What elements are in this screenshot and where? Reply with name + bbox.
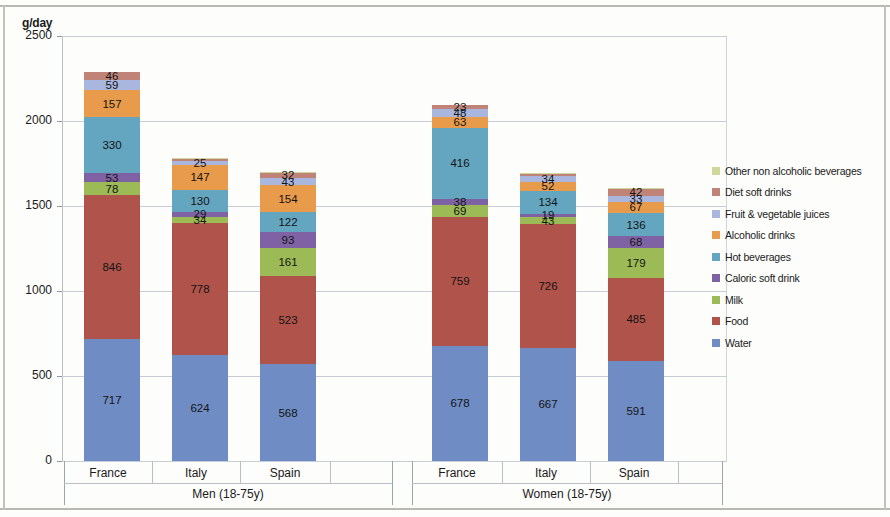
gridline bbox=[62, 36, 727, 37]
x-axis-group-line bbox=[412, 483, 722, 484]
legend-label: Water bbox=[725, 337, 752, 349]
x-axis-category-label: Italy bbox=[502, 466, 590, 480]
bar-value-label: 147 bbox=[172, 171, 228, 183]
legend-swatch-icon bbox=[712, 188, 720, 196]
chart-page: g/day 05001000150020002500 7178467853330… bbox=[0, 0, 890, 517]
legend-label: Food bbox=[725, 315, 748, 327]
legend-swatch-icon bbox=[712, 253, 720, 261]
bar-value-label: 157 bbox=[84, 98, 140, 110]
bar-value-label: 53 bbox=[84, 172, 140, 184]
x-axis-group-line bbox=[64, 483, 392, 484]
legend-swatch-icon bbox=[712, 317, 720, 325]
bar-value-label: 717 bbox=[84, 394, 140, 406]
legend-label: Diet soft drinks bbox=[725, 186, 791, 198]
x-axis-group-separator bbox=[392, 461, 393, 505]
bar-value-label: 179 bbox=[608, 257, 664, 269]
x-axis-category-separator bbox=[330, 461, 331, 483]
legend-item[interactable]: Alcoholic drinks bbox=[712, 225, 887, 247]
legend-item[interactable]: Water bbox=[712, 332, 887, 354]
bar-value-label: 678 bbox=[432, 397, 488, 409]
bar-value-label: 416 bbox=[432, 157, 488, 169]
legend-swatch-icon bbox=[712, 231, 720, 239]
y-axis-tick-mark bbox=[57, 291, 62, 292]
bar-value-label: 624 bbox=[172, 402, 228, 414]
bar-value-label: 591 bbox=[608, 405, 664, 417]
legend-label: Milk bbox=[725, 294, 743, 306]
y-axis-tick-mark bbox=[57, 461, 62, 462]
bar-value-label: 523 bbox=[260, 314, 316, 326]
legend-swatch-icon bbox=[712, 274, 720, 282]
gridline bbox=[62, 121, 727, 122]
y-axis-tick-mark bbox=[57, 376, 62, 377]
legend-item[interactable]: Milk bbox=[712, 289, 887, 311]
y-axis-tick-mark bbox=[57, 36, 62, 37]
bar-value-label: 759 bbox=[432, 275, 488, 287]
bar-value-label: 29 bbox=[172, 208, 228, 220]
bar-value-label: 25 bbox=[172, 157, 228, 169]
bar-value-label: 34 bbox=[520, 173, 576, 185]
x-axis-category-label: France bbox=[412, 466, 502, 480]
bar-value-label: 19 bbox=[520, 209, 576, 221]
bar-value-label: 667 bbox=[520, 398, 576, 410]
legend-swatch-icon bbox=[712, 167, 720, 175]
legend-item[interactable]: Diet soft drinks bbox=[712, 182, 887, 204]
bar-value-label: 68 bbox=[608, 236, 664, 248]
bar-value-label: 93 bbox=[260, 234, 316, 246]
y-axis-tick-label: 1500 bbox=[6, 198, 52, 212]
bar-value-label: 38 bbox=[432, 196, 488, 208]
y-axis-tick-label: 1000 bbox=[6, 283, 52, 297]
x-axis-group-separator bbox=[722, 461, 723, 505]
bar-value-label: 485 bbox=[608, 313, 664, 325]
bar-value-label: 778 bbox=[172, 283, 228, 295]
y-axis-tick-label: 2500 bbox=[6, 28, 52, 42]
bar-value-label: 32 bbox=[260, 169, 316, 181]
legend-item[interactable]: Fruit & vegetable juices bbox=[712, 203, 887, 225]
bar-value-label: 161 bbox=[260, 256, 316, 268]
bar-value-label: 568 bbox=[260, 407, 316, 419]
legend-swatch-icon bbox=[712, 296, 720, 304]
legend-item[interactable]: Hot beverages bbox=[712, 246, 887, 268]
chart-legend: Other non alcoholic beveragesDiet soft d… bbox=[712, 160, 887, 354]
x-axis-category-label: France bbox=[64, 466, 152, 480]
y-axis-tick-label: 2000 bbox=[6, 113, 52, 127]
bar-value-label: 122 bbox=[260, 216, 316, 228]
legend-item[interactable]: Food bbox=[712, 311, 887, 333]
legend-label: Fruit & vegetable juices bbox=[725, 208, 829, 220]
bar-value-label: 136 bbox=[608, 219, 664, 231]
y-axis-line bbox=[62, 36, 63, 461]
legend-swatch-icon bbox=[712, 210, 720, 218]
x-axis-category-separator bbox=[678, 461, 679, 483]
bar-value-label: 154 bbox=[260, 193, 316, 205]
bar-value-label: 46 bbox=[84, 70, 140, 82]
page-border-left bbox=[3, 5, 5, 510]
bar-value-label: 726 bbox=[520, 280, 576, 292]
bar-value-label: 134 bbox=[520, 196, 576, 208]
x-axis-group-label: Women (18-75y) bbox=[412, 487, 722, 501]
page-border-bottom bbox=[0, 508, 890, 510]
plot-area: 05001000150020002500 7178467853330157594… bbox=[62, 36, 727, 461]
legend-label: Caloric soft drink bbox=[725, 272, 800, 284]
y-axis-tick-mark bbox=[57, 121, 62, 122]
legend-label: Alcoholic drinks bbox=[725, 229, 795, 241]
x-axis-category-label: Italy bbox=[152, 466, 240, 480]
legend-label: Hot beverages bbox=[725, 251, 791, 263]
bar-value-label: 23 bbox=[432, 101, 488, 113]
bar-value-label: 130 bbox=[172, 195, 228, 207]
bar-value-label: 42 bbox=[608, 186, 664, 198]
bar-value-label: 78 bbox=[84, 183, 140, 195]
legend-item[interactable]: Other non alcoholic beverages bbox=[712, 160, 887, 182]
bar-value-label: 846 bbox=[84, 261, 140, 273]
gridline bbox=[62, 461, 727, 462]
legend-swatch-icon bbox=[712, 339, 720, 347]
legend-label: Other non alcoholic beverages bbox=[725, 165, 862, 177]
x-axis-category-label: Spain bbox=[590, 466, 678, 480]
bar-value-label: 330 bbox=[84, 139, 140, 151]
legend-item[interactable]: Caloric soft drink bbox=[712, 268, 887, 290]
y-axis-tick-label: 0 bbox=[6, 453, 52, 467]
page-border-top bbox=[0, 5, 890, 7]
y-axis-tick-label: 500 bbox=[6, 368, 52, 382]
x-axis-category-label: Spain bbox=[240, 466, 330, 480]
y-axis-tick-mark bbox=[57, 206, 62, 207]
x-axis-group-label: Men (18-75y) bbox=[64, 487, 392, 501]
